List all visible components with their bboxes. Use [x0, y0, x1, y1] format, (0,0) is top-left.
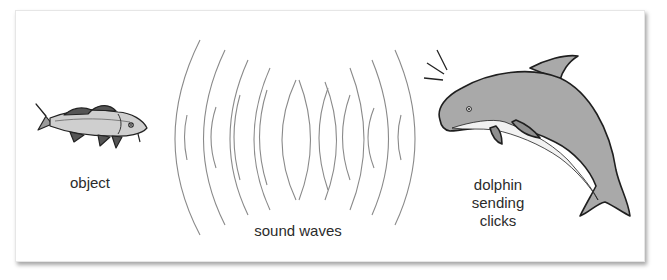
dolphin-label-line1: dolphin — [458, 176, 538, 194]
object-label: object — [60, 174, 120, 192]
dolphin-label-line2: sending — [458, 194, 538, 212]
sound-waves-label: sound waves — [243, 222, 353, 240]
fish-icon — [36, 104, 147, 148]
sound-waves-icon — [175, 40, 415, 235]
click-lines-icon — [424, 50, 447, 80]
dolphin-label-line3: clicks — [458, 212, 538, 230]
